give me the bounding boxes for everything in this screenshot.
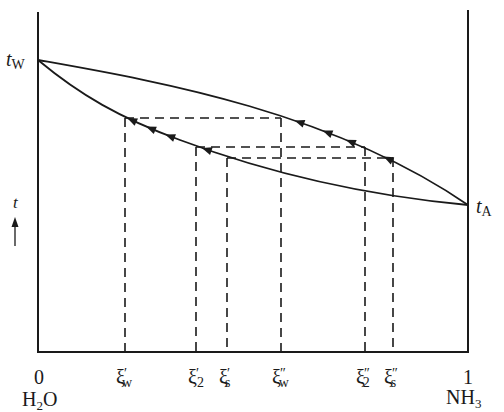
xi-dprime-2-label: ξ″2: [356, 366, 370, 390]
x-tick-1: 1: [463, 366, 473, 388]
boiling-point-curve: [38, 60, 468, 205]
nh3-label: NH3: [446, 386, 481, 411]
lower-curve-arrow-icon: [126, 114, 138, 125]
h2o-label: H2O: [22, 388, 57, 412]
y-axis-label: t: [13, 193, 19, 212]
dew-point-curve: [38, 60, 468, 205]
up-arrow-icon: [12, 217, 19, 227]
xi-prime-w-label: ξ′w: [116, 366, 133, 390]
upper-curve-arrow-icon: [293, 117, 305, 128]
lower-curve-arrow-icon: [145, 123, 157, 134]
lower-curve-arrow-icon: [164, 131, 176, 142]
lower-curve-arrows: [126, 114, 213, 155]
x-tick-0: 0: [34, 366, 44, 388]
t-a-label: tA: [476, 195, 493, 219]
upper-curve-arrow-icon: [344, 136, 356, 147]
xi-prime-s-label: ξ′s: [219, 366, 230, 390]
xi-dprime-w-label: ξ″w: [272, 366, 290, 390]
lower-curve-arrow-icon: [201, 144, 213, 155]
upper-curve-arrow-icon: [321, 127, 333, 138]
xi-dprime-s-label: ξ″s: [384, 366, 398, 390]
t-w-label: tW: [6, 48, 26, 72]
phase-diagram: tW tA t 0 1 ξ′w ξ′2 ξ′s ξ″w ξ″2 ξ″s H2O …: [0, 0, 504, 412]
xi-prime-2-label: ξ′2: [188, 366, 204, 390]
